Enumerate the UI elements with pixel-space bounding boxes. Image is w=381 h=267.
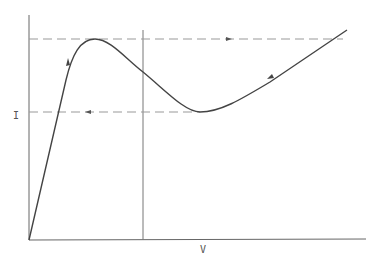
arrow-left-icon (85, 110, 91, 114)
arrow-right-icon (226, 37, 232, 41)
x-axis-label: V (200, 244, 206, 255)
arrow-up-icon (66, 58, 70, 66)
x-axis (29, 239, 366, 240)
iv-diagram (0, 0, 381, 267)
iv-curve (29, 30, 347, 240)
arrow-down-left-icon (267, 74, 274, 79)
y-axis-label: I (13, 110, 19, 121)
